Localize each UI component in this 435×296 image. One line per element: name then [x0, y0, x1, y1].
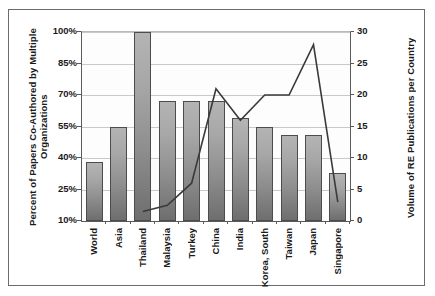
y-axis-left-tick-label: 85% [17, 58, 77, 68]
x-axis-category-label: India [234, 228, 245, 250]
x-axis-category-label: Singapore [332, 228, 343, 274]
chart-frame: Percent of Papers Co-Authored by Multipl… [8, 9, 425, 286]
x-axis-category-label: Japan [307, 228, 318, 255]
x-axis-category-label: World [88, 228, 99, 255]
x-axis-category-label: Malaysia [161, 228, 172, 268]
x-axis-category-label: Asia [113, 228, 124, 248]
y-axis-left-tick-label: 25% [17, 184, 77, 194]
y-axis-right-tick-label: 20 [357, 89, 387, 99]
x-axis-category-label: China [210, 228, 221, 254]
plot-area [81, 31, 351, 222]
y-axis-right-tick-label: 15 [357, 121, 387, 131]
y-axis-right-tick-label: 25 [357, 58, 387, 68]
y-axis-right-tick-label: 5 [357, 184, 387, 194]
y-axis-left-tick-label: 70% [17, 89, 77, 99]
y-axis-right-tick-label: 30 [357, 26, 387, 36]
y-axis-right-tick-label: 10 [357, 152, 387, 162]
x-axis-category-label: Taiwan [283, 228, 294, 260]
y-axis-right-title: Volume of RE Publications per Country [405, 28, 416, 228]
y-axis-left-tick-label: 40% [17, 152, 77, 162]
line-series [82, 32, 350, 221]
x-axis-category-label: Thailand [137, 228, 148, 267]
x-axis-category-label: Turkey [186, 228, 197, 258]
x-axis-category-label: Korea, South [259, 228, 270, 287]
line-path [143, 45, 338, 212]
y-axis-left-tick-label: 100% [17, 26, 77, 36]
y-axis-left-tick-label: 10% [17, 215, 77, 225]
y-axis-left-tick-label: 55% [17, 121, 77, 131]
y-axis-right-tick-label: 0 [357, 215, 387, 225]
